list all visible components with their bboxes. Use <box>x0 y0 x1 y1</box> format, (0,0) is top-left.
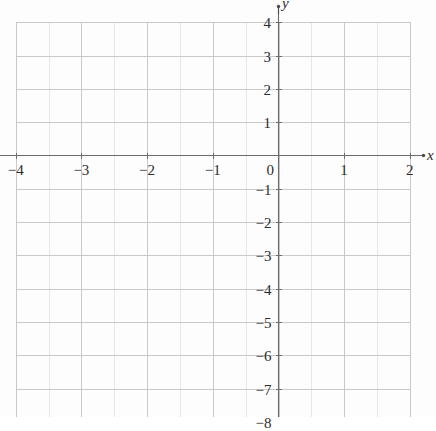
y-axis-tick-label: −3 <box>256 249 272 264</box>
y-axis-tick-label: −1 <box>256 183 272 198</box>
y-axis-tick-label: −6 <box>256 349 272 364</box>
y-axis-tick-label: −7 <box>256 383 272 398</box>
x-axis-tick-label: −1 <box>205 163 221 178</box>
x-axis-tick-label: −4 <box>8 163 24 178</box>
x-axis-tick-label: 1 <box>340 163 348 178</box>
y-axis-tick-label: 2 <box>264 83 272 98</box>
x-axis-tick-label: 0 <box>267 163 275 178</box>
y-axis-tick-label: −8 <box>256 416 272 431</box>
y-axis-tick-label: 4 <box>264 16 272 31</box>
x-axis-arrow-icon <box>422 154 425 157</box>
y-axis-tick-label: −4 <box>256 283 272 298</box>
y-axis-tick-label: −2 <box>256 216 272 231</box>
y-axis-tick-label: 3 <box>264 50 272 65</box>
y-axis-label: y <box>282 0 289 11</box>
horizontal-gridlines <box>16 23 410 418</box>
vertical-gridlines <box>17 22 411 417</box>
x-axis-label: x <box>427 148 434 163</box>
y-axis-tick-label: 1 <box>264 116 272 131</box>
x-axis-tick-label: 2 <box>406 163 414 178</box>
y-axis-tick-label: −5 <box>256 316 272 331</box>
x-axis-tick-label: −2 <box>139 163 155 178</box>
x-axis-tick-label: −3 <box>73 163 89 178</box>
axis-arrowheads <box>277 5 425 157</box>
